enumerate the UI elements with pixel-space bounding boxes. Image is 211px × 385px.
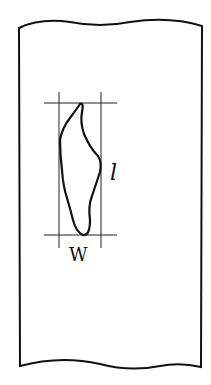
width-label: W (69, 244, 88, 265)
length-label: l (110, 160, 117, 185)
specimen-shape (60, 104, 101, 235)
strip-outline (19, 20, 202, 369)
diagram-canvas (0, 0, 211, 385)
